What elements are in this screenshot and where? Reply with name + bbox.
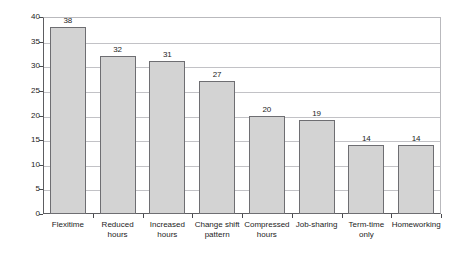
bar-value-label: 20	[262, 105, 271, 114]
x-tick-mark	[143, 214, 144, 218]
x-tick-mark	[441, 214, 442, 218]
bottom-caption-fragment	[0, 251, 457, 260]
y-tick-label: 15	[10, 136, 40, 144]
y-tick-mark	[39, 189, 43, 190]
y-tick-mark	[39, 214, 43, 215]
bar[interactable]	[299, 120, 335, 214]
x-tick-mark	[342, 214, 343, 218]
bar-value-label: 32	[113, 45, 122, 54]
bar-value-label: 31	[163, 50, 172, 59]
y-tick-label: 5	[10, 185, 40, 193]
y-tick-label: 30	[10, 62, 40, 70]
bar-slot: 31	[143, 17, 193, 214]
bar[interactable]	[100, 56, 136, 214]
bar-value-label: 38	[63, 16, 72, 25]
x-tick-mark	[192, 214, 193, 218]
bar-value-label: 14	[412, 134, 421, 143]
x-tick-mark	[292, 214, 293, 218]
y-tick-label: 20	[10, 112, 40, 120]
bar[interactable]	[249, 116, 285, 215]
bar[interactable]	[398, 145, 434, 214]
bar[interactable]	[348, 145, 384, 214]
y-tick-label: 25	[10, 87, 40, 95]
bar-slot: 32	[93, 17, 143, 214]
bar-value-label: 27	[213, 70, 222, 79]
bar-value-label: 19	[312, 109, 321, 118]
bars-layer: 3832312720191414	[43, 17, 441, 214]
y-tick-label: 35	[10, 38, 40, 46]
y-tick-label: 0	[10, 210, 40, 218]
x-tick-mark	[391, 214, 392, 218]
y-tick-mark	[39, 140, 43, 141]
bar-slot: 27	[192, 17, 242, 214]
bar-slot: 20	[242, 17, 292, 214]
y-axis-tick-labels: 0510152025303540	[6, 0, 40, 260]
bar-slot: 14	[391, 17, 441, 214]
bar[interactable]	[199, 81, 235, 214]
x-tick-mark	[93, 214, 94, 218]
y-tick-label: 10	[10, 161, 40, 169]
bar-value-label: 14	[362, 134, 371, 143]
y-tick-label: 40	[10, 13, 40, 21]
y-tick-mark	[39, 42, 43, 43]
x-tick-mark	[242, 214, 243, 218]
bar-chart-figure: Per cent of employees 0510152025303540 3…	[0, 0, 457, 260]
bar[interactable]	[50, 27, 86, 214]
y-tick-mark	[39, 116, 43, 117]
y-tick-mark	[39, 66, 43, 67]
bar-slot: 38	[43, 17, 93, 214]
bar-slot: 19	[292, 17, 342, 214]
x-category-label-line: Homeworking	[385, 220, 447, 230]
x-category-label-line: hours	[236, 230, 298, 240]
y-tick-mark	[39, 91, 43, 92]
x-category-label-line: only	[336, 230, 398, 240]
y-tick-mark	[39, 17, 43, 18]
bar-slot: 14	[342, 17, 392, 214]
x-category-label: Homeworking	[385, 220, 447, 230]
bar[interactable]	[149, 61, 185, 214]
y-tick-mark	[39, 165, 43, 166]
